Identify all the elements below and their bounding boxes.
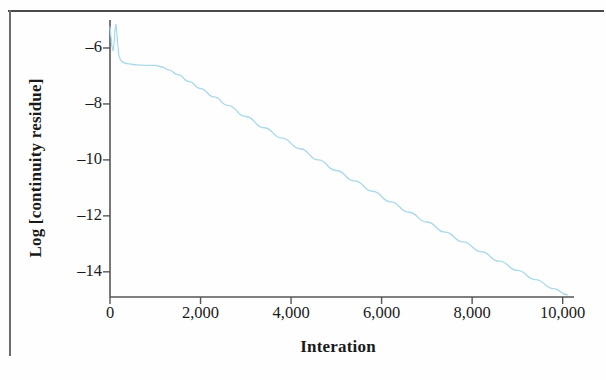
x-tick-label: 6,000 xyxy=(337,303,427,323)
y-axis-ticks xyxy=(103,48,110,272)
y-tick-label: –10 xyxy=(50,149,102,169)
x-tick-label: 0 xyxy=(65,303,155,323)
x-tick-label: 10,000 xyxy=(518,303,606,323)
data-series-continuity-residue xyxy=(110,24,567,295)
x-axis-title: Interation xyxy=(110,337,566,357)
figure-page: –6–8–10–12–14 02,0004,0006,0008,00010,00… xyxy=(0,0,606,380)
x-tick-label: 8,000 xyxy=(427,303,517,323)
y-tick-label: –8 xyxy=(50,93,102,113)
y-tick-label: –12 xyxy=(50,205,102,225)
residual-convergence-chart xyxy=(0,0,606,380)
y-tick-label: –14 xyxy=(50,261,102,281)
y-tick-label: –6 xyxy=(50,37,102,57)
x-tick-label: 2,000 xyxy=(156,303,246,323)
x-tick-label: 4,000 xyxy=(246,303,336,323)
y-axis-title: Log [continuity residue] xyxy=(26,28,46,308)
